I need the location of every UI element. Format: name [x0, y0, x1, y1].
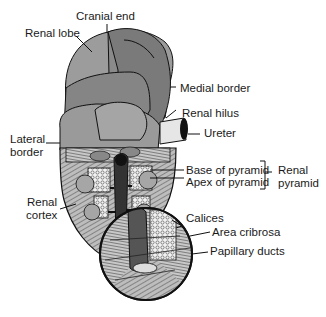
label-area-cribrosa: Area cribrosa — [212, 226, 280, 239]
label-renal-hilus: Renal hilus — [182, 107, 239, 120]
kidney-diagram: Cranial end Renal lobe Medial border Ren… — [0, 0, 326, 317]
label-cranial-end: Cranial end — [76, 10, 135, 23]
label-apex-of-pyramid: Apex of pyramid — [186, 176, 269, 189]
ureter-shape — [160, 118, 188, 144]
label-lateral-border-line2: border — [10, 146, 43, 159]
kidney-illustration — [0, 0, 326, 317]
label-papillary-ducts: Papillary ducts — [210, 245, 285, 258]
label-renal-lobe: Renal lobe — [25, 27, 80, 40]
label-renal-pyramid-line1: Renal — [278, 164, 308, 177]
label-renal-cortex-line1: Renal — [27, 196, 57, 209]
renal-lobes — [60, 29, 173, 150]
label-lateral-border-line1: Lateral — [10, 133, 45, 146]
label-renal-cortex-line2: cortex — [26, 209, 57, 222]
label-medial-border: Medial border — [180, 82, 250, 95]
label-ureter: Ureter — [204, 127, 236, 140]
label-renal-pyramid-line2: pyramid — [278, 177, 319, 190]
magnified-papilla — [100, 207, 200, 300]
label-calices: Calices — [186, 212, 224, 225]
